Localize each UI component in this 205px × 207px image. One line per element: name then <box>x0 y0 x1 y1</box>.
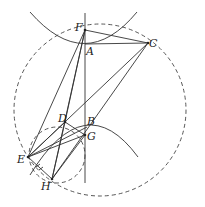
geometry-figure: F A C D B G E H <box>0 0 205 207</box>
label-E: E <box>16 153 25 166</box>
label-C: C <box>149 37 158 50</box>
label-G: G <box>87 130 96 143</box>
label-F: F <box>74 21 83 34</box>
label-H: H <box>40 180 51 193</box>
large-dashed-circle <box>14 24 186 196</box>
label-B: B <box>86 115 95 128</box>
label-D: D <box>57 112 67 125</box>
label-A: A <box>85 45 94 58</box>
